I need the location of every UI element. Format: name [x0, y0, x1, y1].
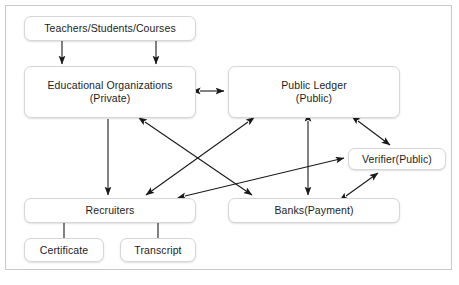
node-label: Verifier(Public)	[362, 153, 432, 166]
diagram-frame	[5, 5, 452, 270]
diagram-canvas: Teachers/Students/Courses Educational Or…	[0, 0, 459, 285]
node-certificate[interactable]: Certificate	[24, 238, 104, 262]
node-label: Recruiters	[86, 204, 135, 217]
node-label: Certificate	[40, 244, 88, 257]
node-teachers-students-courses[interactable]: Teachers/Students/Courses	[24, 16, 196, 41]
node-label: Transcript	[134, 244, 181, 257]
node-educational-organizations[interactable]: Educational Organizations (Private)	[24, 66, 196, 118]
node-banks-payment[interactable]: Banks(Payment)	[228, 198, 400, 223]
node-recruiters[interactable]: Recruiters	[24, 198, 196, 223]
node-label: Public Ledger (Public)	[281, 79, 347, 105]
node-label: Teachers/Students/Courses	[44, 22, 175, 35]
node-label: Educational Organizations (Private)	[47, 79, 172, 105]
node-verifier[interactable]: Verifier(Public)	[348, 148, 446, 170]
node-transcript[interactable]: Transcript	[120, 238, 196, 262]
node-public-ledger[interactable]: Public Ledger (Public)	[228, 66, 400, 118]
node-label: Banks(Payment)	[274, 204, 353, 217]
